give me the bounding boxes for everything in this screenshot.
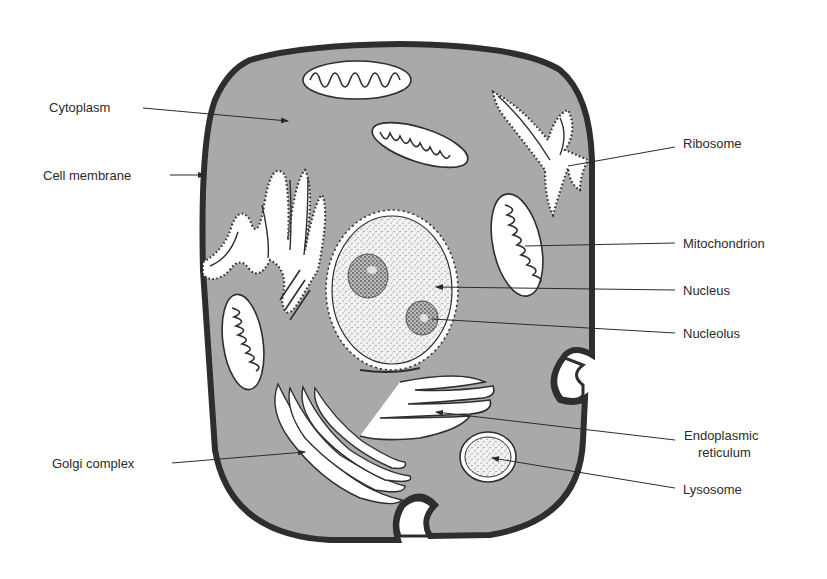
mitochondrion-top xyxy=(303,61,411,99)
label-nucleus: Nucleus xyxy=(683,283,730,298)
label-mitochondrion: Mitochondrion xyxy=(683,236,765,251)
label-cytoplasm: Cytoplasm xyxy=(49,100,110,115)
label-endoplasmic: Endoplasmic xyxy=(684,428,759,443)
nucleolus-lower xyxy=(406,301,438,335)
label-ribosome: Ribosome xyxy=(683,136,742,151)
lysosome xyxy=(460,432,516,482)
label-lysosome: Lysosome xyxy=(683,482,742,497)
label-cell-membrane: Cell membrane xyxy=(43,168,131,183)
label-reticulum: reticulum xyxy=(698,445,751,460)
label-nucleolus: Nucleolus xyxy=(683,326,741,341)
cell-diagram: Cytoplasm Cell membrane Golgi complex Ri… xyxy=(0,0,827,579)
nucleolus-upper xyxy=(348,254,388,298)
label-golgi-complex: Golgi complex xyxy=(52,456,135,471)
